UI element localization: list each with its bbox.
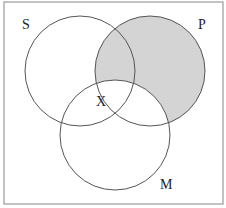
label-p: P [198, 17, 206, 32]
label-x: X [96, 94, 106, 109]
venn-diagram: S P X M [0, 0, 226, 208]
label-m: M [160, 177, 173, 192]
label-s: S [22, 17, 30, 32]
